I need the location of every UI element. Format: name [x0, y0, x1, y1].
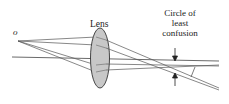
circle-label-line-1: Circle of — [148, 8, 212, 18]
object-point-label: o — [13, 28, 18, 37]
lens-diagram: o Lens Circle of least confusion — [0, 0, 229, 104]
refracted-rays — [106, 40, 219, 90]
circle-label-line-3: confusion — [148, 28, 212, 38]
circle-of-least-confusion-label: Circle of least confusion — [148, 8, 212, 38]
lens-shape — [91, 28, 110, 88]
circle-label-line-2: least — [148, 18, 212, 28]
optical-axis — [12, 57, 219, 61]
angle-marker — [191, 67, 195, 77]
lens-label: Lens — [90, 20, 108, 29]
incident-rays — [18, 37, 96, 72]
